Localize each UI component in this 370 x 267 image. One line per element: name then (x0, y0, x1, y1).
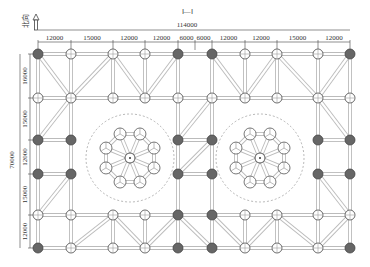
column-node (66, 243, 76, 253)
column-node (207, 169, 217, 179)
column-node (173, 210, 183, 220)
column-node (33, 210, 43, 220)
svg-text:12000: 12000 (21, 222, 29, 240)
column-node (313, 135, 323, 145)
total-height-label: 70000 (8, 151, 16, 169)
column-node (173, 49, 183, 59)
column-node (240, 93, 250, 103)
svg-text:12000: 12000 (21, 148, 29, 166)
column-node (272, 93, 282, 103)
column-node (33, 49, 43, 59)
column-node (345, 93, 355, 103)
svg-text:12000: 12000 (120, 34, 138, 42)
total-width-label: 114000 (177, 21, 198, 29)
column-node (207, 135, 217, 145)
svg-text:12000: 12000 (153, 34, 171, 42)
column-node (313, 210, 323, 220)
svg-text:16000: 16000 (21, 67, 29, 85)
column-node (345, 243, 355, 253)
column-node (207, 243, 217, 253)
column-node (66, 49, 76, 59)
north-arrow: 北向 (21, 14, 39, 30)
dome-right (216, 114, 304, 202)
column-node (272, 49, 282, 59)
column-node (108, 243, 118, 253)
svg-text:12000: 12000 (220, 34, 238, 42)
column-node (140, 49, 150, 59)
column-node (240, 243, 250, 253)
column-node (33, 93, 43, 103)
north-label: 北向 (21, 14, 30, 28)
svg-text:12000: 12000 (46, 34, 64, 42)
plan-canvas: Ⅰ—Ⅰ 114000 北向 70000 12000150001200012000… (0, 0, 370, 267)
column-node (173, 135, 183, 145)
column-node (108, 49, 118, 59)
column-node (345, 210, 355, 220)
column-node (66, 93, 76, 103)
column-node (345, 169, 355, 179)
column-nodes (33, 49, 355, 253)
column-node (313, 169, 323, 179)
column-node (66, 169, 76, 179)
column-node (173, 93, 183, 103)
column-node (33, 169, 43, 179)
dome-left (86, 114, 174, 202)
column-node (33, 243, 43, 253)
column-node (313, 49, 323, 59)
column-node (207, 93, 217, 103)
svg-text:15000: 15000 (289, 34, 307, 42)
svg-text:15000: 15000 (21, 110, 29, 128)
column-node (66, 210, 76, 220)
structural-plan-diagram: Ⅰ—Ⅰ 114000 北向 70000 12000150001200012000… (0, 0, 370, 267)
svg-text:12000: 12000 (325, 34, 343, 42)
column-node (207, 210, 217, 220)
column-node (272, 210, 282, 220)
column-node (272, 243, 282, 253)
column-node (173, 169, 183, 179)
column-node (240, 210, 250, 220)
column-node (345, 49, 355, 59)
svg-text:6000: 6000 (197, 34, 212, 42)
column-node (313, 93, 323, 103)
svg-text:12000: 12000 (252, 34, 270, 42)
column-node (140, 243, 150, 253)
column-node (240, 49, 250, 59)
column-node (108, 93, 118, 103)
column-node (108, 210, 118, 220)
column-node (66, 135, 76, 145)
column-node (207, 49, 217, 59)
column-node (313, 243, 323, 253)
section-label: Ⅰ—Ⅰ (182, 8, 193, 16)
column-node (140, 93, 150, 103)
svg-text:6000: 6000 (180, 34, 195, 42)
svg-text:15000: 15000 (21, 185, 29, 203)
column-node (345, 135, 355, 145)
svg-text:15000: 15000 (83, 34, 101, 42)
column-node (173, 243, 183, 253)
column-node (140, 210, 150, 220)
column-node (33, 135, 43, 145)
